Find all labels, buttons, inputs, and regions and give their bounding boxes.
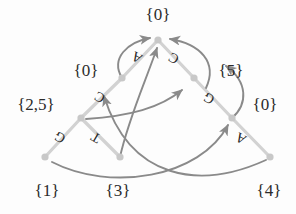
tree-node-n_l3[interactable] — [41, 153, 48, 160]
node-set-label-n_r3: {4} — [257, 182, 282, 199]
suffix-link-arrow — [52, 125, 228, 178]
tree-node-n_l2[interactable] — [77, 114, 84, 121]
tree-node-n_m1[interactable] — [116, 153, 123, 160]
tree-node-n_l1[interactable] — [118, 74, 125, 81]
suffix-tree-diagram: {0}{0}{2,5}{1}{3}{5}{0}{4} ACGTCGA — [0, 0, 296, 214]
tree-node-n_r1[interactable] — [190, 74, 197, 81]
tree-node-root[interactable] — [154, 36, 161, 43]
node-set-label-n_l2: {2,5} — [17, 96, 55, 113]
node-set-label-n_l1: {0} — [74, 62, 99, 79]
node-set-label-n_r1: {5} — [219, 62, 244, 79]
tree-node-n_r3[interactable] — [266, 153, 273, 160]
suffix-link-layer — [52, 38, 266, 178]
tree-node-n_r2[interactable] — [228, 114, 235, 121]
node-set-label-n_l3: {1} — [35, 182, 60, 199]
node-set-label-root: {0} — [146, 6, 171, 23]
node-set-label-n_m1: {3} — [106, 182, 131, 199]
node-set-label-n_r2: {0} — [253, 96, 278, 113]
